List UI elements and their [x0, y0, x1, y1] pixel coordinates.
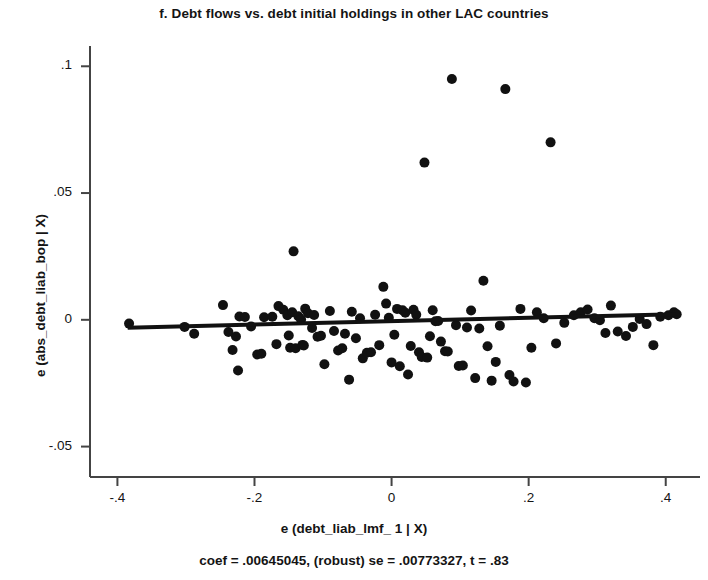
scatter-point	[419, 158, 429, 168]
scatter-point	[240, 312, 250, 322]
x-axis-tick-label: 0	[362, 490, 422, 505]
scatter-point	[546, 137, 556, 147]
scatter-point	[366, 347, 376, 357]
scatter-point	[470, 373, 480, 383]
scatter-point	[374, 340, 384, 350]
scatter-point	[642, 319, 652, 329]
axis-lines	[90, 46, 700, 477]
scatter-point	[218, 300, 228, 310]
scatter-points-group	[124, 74, 682, 387]
scatter-point	[267, 312, 277, 322]
x-axis-tick-label: .4	[636, 490, 696, 505]
scatter-point	[325, 306, 335, 316]
scatter-point	[495, 321, 505, 331]
scatter-point	[422, 353, 432, 363]
scatter-point	[337, 343, 347, 353]
y-axis-tick-label: .05	[12, 184, 72, 199]
regression-scatter-figure: f. Debt flows vs. debt initial holdings …	[0, 0, 708, 580]
x-axis-tick-label: .2	[499, 490, 559, 505]
scatter-point	[551, 338, 561, 348]
scatter-point	[406, 341, 416, 351]
scatter-point	[515, 304, 525, 314]
scatter-point	[458, 360, 468, 370]
scatter-point	[487, 376, 497, 386]
scatter-point	[381, 299, 391, 309]
scatter-point	[340, 329, 350, 339]
scatter-point	[606, 301, 616, 311]
scatter-point	[189, 329, 199, 339]
scatter-point	[509, 376, 519, 386]
y-axis-ticks	[81, 66, 90, 446]
scatter-point	[478, 276, 488, 286]
scatter-point	[436, 337, 446, 347]
scatter-point	[395, 361, 405, 371]
scatter-point	[378, 282, 388, 292]
scatter-point	[491, 357, 501, 367]
scatter-point	[233, 366, 243, 376]
scatter-point	[628, 322, 638, 332]
scatter-point	[231, 332, 241, 342]
scatter-point	[319, 359, 329, 369]
y-axis-tick-label: 0	[12, 311, 72, 326]
x-axis-tick-label: -.2	[224, 490, 284, 505]
scatter-point	[600, 328, 610, 338]
scatter-point	[526, 343, 536, 353]
scatter-point	[500, 84, 510, 94]
scatter-point	[559, 318, 569, 328]
scatter-point	[347, 307, 357, 317]
scatter-point	[483, 341, 493, 351]
scatter-point	[447, 74, 457, 84]
scatter-point	[443, 347, 453, 357]
scatter-point	[370, 310, 380, 320]
scatter-point	[403, 370, 413, 380]
scatter-point	[271, 339, 281, 349]
scatter-point	[521, 377, 531, 387]
x-axis-tick-label: -.4	[87, 490, 147, 505]
scatter-point	[284, 331, 294, 341]
y-axis-tick-label: -.05	[12, 438, 72, 453]
scatter-point	[299, 340, 309, 350]
scatter-point	[256, 349, 266, 359]
x-axis-ticks	[117, 477, 665, 486]
scatter-point	[228, 345, 238, 355]
scatter-point	[428, 305, 438, 315]
regression-caption: coef = .00645045, (robust) se = .0077332…	[0, 553, 708, 568]
scatter-point	[425, 331, 435, 341]
scatter-point	[389, 330, 399, 340]
scatter-point	[329, 326, 339, 336]
scatter-point	[351, 333, 361, 343]
scatter-point	[462, 322, 472, 332]
scatter-point	[344, 375, 354, 385]
scatter-point	[474, 323, 484, 333]
scatter-point	[411, 310, 421, 320]
scatter-point	[466, 305, 476, 315]
scatter-point	[583, 304, 593, 314]
scatter-point	[621, 331, 631, 341]
scatter-point	[316, 331, 326, 341]
scatter-point	[648, 340, 658, 350]
scatter-point	[309, 310, 319, 320]
y-axis-tick-label: .1	[12, 57, 72, 72]
scatter-point	[289, 246, 299, 256]
x-axis-label: e (debt_liab_lmf_ 1 | X)	[0, 521, 708, 536]
